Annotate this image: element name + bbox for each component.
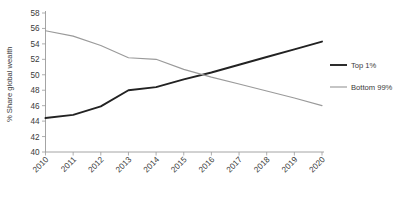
y-tick-label: 40 [30, 148, 40, 157]
y-tick-label: 54 [30, 40, 40, 49]
x-tick-label: 2012 [86, 155, 106, 175]
y-axis-title-label: % Share global wealth [5, 46, 14, 122]
chart-canvas: 40424446485052545658 2010201120122013201… [0, 0, 396, 204]
legend-label-0: Top 1% [351, 61, 377, 70]
y-tick-label: 46 [30, 102, 40, 111]
legend-label-1: Bottom 99% [351, 83, 393, 92]
y-axis: 40424446485052545658 [30, 9, 45, 157]
x-tick-label: 2014 [142, 155, 162, 175]
y-tick-label: 48 [30, 86, 40, 95]
x-tick-label: 2017 [225, 155, 245, 175]
y-tick-label: 56 [30, 24, 40, 33]
series-line-bottom-99 [46, 31, 323, 106]
x-axis: 2010201120122013201420152016201720182019… [31, 152, 327, 174]
x-tick-label: 2013 [114, 155, 134, 175]
y-axis-title: % Share global wealth [5, 46, 14, 122]
x-tick-label: 2016 [197, 155, 217, 175]
y-tick-label: 58 [30, 9, 40, 18]
y-tick-label: 42 [30, 133, 40, 142]
x-tick-label: 2015 [169, 155, 189, 175]
y-axis-tick-labels: 40424446485052545658 [30, 9, 40, 157]
x-axis-tick-labels: 2010201120122013201420152016201720182019… [31, 155, 327, 175]
y-tick-label: 52 [30, 55, 40, 64]
y-tick-label: 44 [30, 117, 40, 126]
series-line-top-1 [46, 42, 323, 118]
series-lines [46, 31, 323, 118]
line-chart: 40424446485052545658 2010201120122013201… [0, 0, 396, 204]
x-tick-label: 2018 [252, 155, 272, 175]
y-tick-label: 50 [30, 71, 40, 80]
x-tick-label: 2011 [59, 155, 78, 174]
chart-legend: Top 1%Bottom 99% [330, 61, 393, 92]
x-tick-label: 2019 [280, 155, 300, 175]
y-axis-ticks [42, 13, 46, 152]
x-axis-ticks [46, 152, 323, 156]
x-tick-label: 2010 [31, 155, 51, 175]
x-tick-label: 2020 [308, 155, 328, 175]
